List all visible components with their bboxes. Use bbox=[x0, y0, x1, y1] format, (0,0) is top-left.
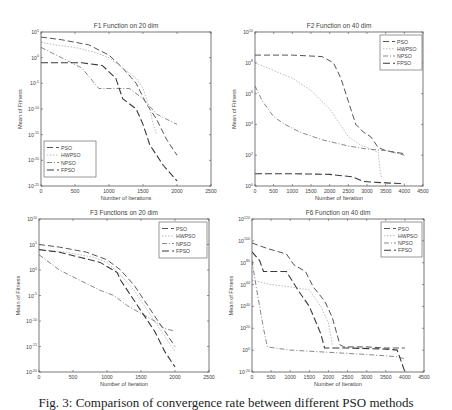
legend-label: FPSO bbox=[397, 60, 411, 66]
y-tick-label: 100 bbox=[242, 347, 250, 354]
x-tick-label: 2000 bbox=[169, 374, 181, 380]
series-npso-line bbox=[41, 47, 177, 124]
y-axis-label: Mean of Fitness bbox=[15, 275, 21, 315]
y-tick-label: 106 bbox=[245, 90, 253, 97]
legend: PSOHWPSONPSOFPSO bbox=[159, 222, 207, 258]
legend-label: HWPSO bbox=[176, 233, 196, 239]
y-tick-label: 10-15 bbox=[26, 343, 37, 350]
y-tick-label: 105 bbox=[29, 241, 37, 248]
x-tick-label: 500 bbox=[69, 374, 78, 380]
series-hwpso-line bbox=[255, 63, 382, 179]
x-tick-label: 2000 bbox=[323, 374, 335, 380]
y-tick-label: 100 bbox=[245, 183, 253, 190]
chart-f1-convergence: F1 Function on 20 dim0500100015002000250… bbox=[17, 22, 217, 201]
x-axis-label: Number of Iterations bbox=[101, 195, 152, 201]
y-tick-label: 105 bbox=[31, 29, 39, 36]
y-tick-label: 108 bbox=[245, 59, 253, 66]
legend-label: PSO bbox=[398, 226, 409, 232]
y-tick-label: 10-10 bbox=[26, 318, 37, 325]
x-tick-label: 0 bbox=[251, 374, 254, 380]
y-tick-label: 10-5 bbox=[28, 292, 37, 299]
x-tick-label: 1500 bbox=[304, 374, 316, 380]
legend-label: FPSO bbox=[398, 247, 412, 253]
y-axis-label: Mean of Fitness bbox=[228, 275, 234, 315]
y-tick-label: 10-5 bbox=[30, 80, 39, 87]
x-tick-label: 0 bbox=[254, 188, 257, 194]
chart-f6-convergence: F6 Function on 40 dim0500100015002000250… bbox=[228, 209, 430, 387]
series-group bbox=[39, 245, 175, 367]
chart-title: F2 Function on 40 dim bbox=[307, 22, 372, 29]
y-tick-label: 10-20 bbox=[239, 369, 250, 376]
series-pso-line bbox=[41, 37, 177, 155]
x-tick-label: 2500 bbox=[343, 188, 355, 194]
legend-label: HWPSO bbox=[398, 233, 418, 239]
x-axis-label: Number of Iteration bbox=[314, 381, 362, 387]
x-tick-label: 1500 bbox=[135, 374, 147, 380]
y-tick-label: 1060 bbox=[240, 281, 250, 288]
y-tick-label: 10-15 bbox=[28, 131, 39, 138]
series-npso-line bbox=[252, 261, 405, 359]
legend-label: HWPSO bbox=[397, 46, 417, 52]
legend: PSOHWPSONPSOFPSO bbox=[44, 141, 96, 177]
y-tick-label: 1020 bbox=[240, 325, 250, 332]
x-tick-label: 0 bbox=[40, 188, 43, 194]
y-tick-label: 1080 bbox=[240, 259, 250, 266]
chart-f3-convergence: F3 Functions on 20 dim050010001500200025… bbox=[15, 209, 215, 387]
x-tick-label: 1000 bbox=[103, 188, 115, 194]
y-tick-label: 1010 bbox=[27, 216, 37, 223]
y-tick-label: 10-25 bbox=[28, 183, 39, 190]
series-fpso-line bbox=[255, 174, 404, 184]
legend-label: FPSO bbox=[61, 167, 75, 173]
legend-label: NPSO bbox=[176, 241, 191, 247]
y-tick-label: 10-20 bbox=[28, 157, 39, 164]
x-tick-label: 2500 bbox=[203, 374, 215, 380]
x-tick-label: 2500 bbox=[342, 374, 354, 380]
legend-label: NPSO bbox=[398, 240, 413, 246]
series-fpso-line bbox=[252, 252, 405, 372]
series-npso-line bbox=[255, 86, 404, 155]
legend-label: FPSO bbox=[176, 248, 190, 254]
x-tick-label: 2000 bbox=[171, 188, 183, 194]
x-tick-label: 1000 bbox=[101, 374, 113, 380]
series-fpso-line bbox=[39, 250, 175, 367]
series-pso-line bbox=[252, 243, 405, 348]
series-hwpso-line bbox=[252, 280, 332, 345]
legend: PSOHWPSONPSOFPSO bbox=[380, 35, 422, 70]
legend: PSOHWPSONPSOFPSO bbox=[381, 222, 422, 257]
series-group bbox=[252, 243, 405, 372]
x-tick-label: 3500 bbox=[380, 188, 392, 194]
legend-label: NPSO bbox=[397, 53, 412, 59]
y-tick-label: 100 bbox=[29, 267, 37, 274]
x-tick-label: 1500 bbox=[305, 188, 317, 194]
y-tick-label: 1010 bbox=[243, 29, 253, 36]
x-tick-label: 1000 bbox=[284, 374, 296, 380]
x-axis-label: Number of Iteration bbox=[315, 195, 363, 201]
legend-label: HWPSO bbox=[61, 152, 81, 158]
chart-title: F1 Function on 20 dim bbox=[94, 22, 159, 29]
y-tick-label: 104 bbox=[245, 121, 253, 128]
x-tick-label: 500 bbox=[269, 188, 278, 194]
series-hwpso-line bbox=[39, 250, 175, 352]
y-axis-label: Mean of Fitness bbox=[231, 89, 237, 129]
x-tick-label: 4000 bbox=[399, 374, 411, 380]
legend-label: PSO bbox=[397, 39, 408, 45]
chart-title: F3 Functions on 20 dim bbox=[90, 209, 158, 216]
legend-label: NPSO bbox=[61, 160, 76, 166]
y-tick-label: 102 bbox=[245, 152, 253, 159]
x-tick-label: 4500 bbox=[418, 374, 430, 380]
y-axis-label: Mean of Fitness bbox=[17, 89, 23, 129]
x-tick-label: 4000 bbox=[399, 188, 411, 194]
x-tick-label: 2500 bbox=[205, 188, 217, 194]
figure-caption: Fig. 3: Comparison of convergence rate b… bbox=[0, 396, 452, 410]
x-tick-label: 1500 bbox=[137, 188, 149, 194]
legend-label: PSO bbox=[176, 226, 187, 232]
y-tick-label: 10100 bbox=[238, 237, 250, 244]
x-tick-label: 500 bbox=[267, 374, 276, 380]
x-tick-label: 0 bbox=[38, 374, 41, 380]
x-tick-label: 4500 bbox=[417, 188, 429, 194]
y-tick-label: 10-10 bbox=[28, 106, 39, 113]
legend-label: PSO bbox=[61, 145, 72, 151]
y-tick-label: 10-20 bbox=[26, 369, 37, 376]
x-axis-label: Number of Iteration bbox=[100, 381, 148, 387]
x-tick-label: 3000 bbox=[361, 374, 373, 380]
